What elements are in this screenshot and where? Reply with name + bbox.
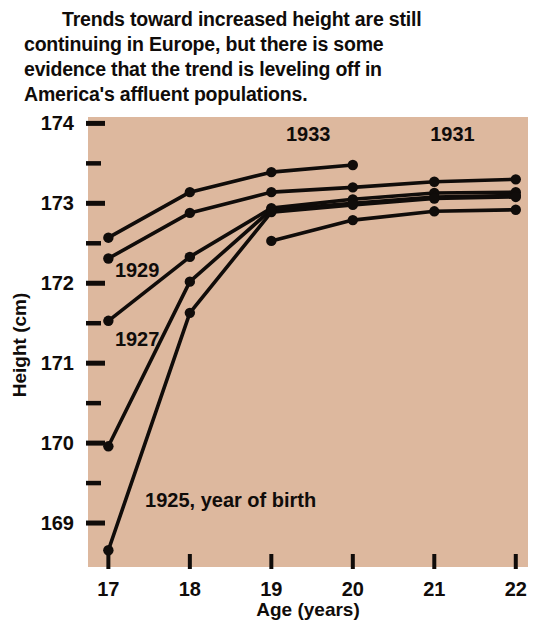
y-tick-label-173: 173	[41, 192, 74, 214]
data-point-1925-age-19	[266, 207, 276, 217]
data-point-1925-age-21	[429, 193, 439, 203]
y-axis-tick-labels: 169170171172173174	[41, 112, 75, 534]
x-axis-tick-labels: 171819202122	[97, 578, 527, 600]
data-point-lowest-age-21	[429, 206, 439, 216]
x-axis-title: Age (years)	[256, 599, 360, 620]
series-annotation-1925: 1925, year of birth	[145, 489, 316, 511]
data-point-1931-age-22	[511, 174, 521, 184]
x-tick-label-18: 18	[179, 578, 201, 600]
data-point-1931-age-17	[103, 253, 113, 263]
y-tick-label-170: 170	[41, 432, 74, 454]
data-point-1933-age-18	[185, 187, 195, 197]
data-point-lowest-age-22	[511, 205, 521, 215]
data-point-1925-age-17	[103, 545, 113, 555]
y-tick-label-172: 172	[41, 272, 74, 294]
y-axis-title: Height (cm)	[9, 293, 30, 398]
height-trend-line-chart: 169170171172173174 171819202122 19331931…	[0, 0, 550, 623]
x-tick-label-20: 20	[342, 578, 364, 600]
x-tick-label-21: 21	[423, 578, 445, 600]
y-tick-label-169: 169	[41, 512, 74, 534]
y-tick-label-174: 174	[41, 112, 75, 134]
data-point-1933-age-17	[103, 232, 113, 242]
y-tick-label-171: 171	[41, 352, 74, 374]
x-tick-label-19: 19	[260, 578, 282, 600]
data-point-1931-age-21	[429, 177, 439, 187]
data-point-1925-age-20	[348, 200, 358, 210]
data-point-1931-age-19	[266, 187, 276, 197]
series-annotation-1931: 1931	[430, 123, 475, 145]
data-point-1925-age-22	[511, 192, 521, 202]
data-point-1931-age-18	[185, 208, 195, 218]
data-point-lowest-age-20	[348, 215, 358, 225]
data-point-1933-age-20	[348, 160, 358, 170]
data-point-1927-age-17	[103, 441, 113, 451]
data-point-1931-age-20	[348, 182, 358, 192]
data-point-lowest-age-19	[266, 236, 276, 246]
series-annotation-1933: 1933	[286, 123, 331, 145]
data-point-1929-age-17	[103, 316, 113, 326]
data-point-1927-age-18	[185, 276, 195, 286]
series-annotation-1927: 1927	[115, 328, 160, 350]
data-point-1933-age-19	[266, 167, 276, 177]
data-point-1925-age-18	[185, 308, 195, 318]
chart-svg: 169170171172173174 171819202122 19331931…	[0, 0, 550, 623]
x-tick-label-17: 17	[97, 578, 119, 600]
data-point-1929-age-18	[185, 252, 195, 262]
series-annotation-1929: 1929	[115, 259, 160, 281]
x-tick-label-22: 22	[505, 578, 527, 600]
